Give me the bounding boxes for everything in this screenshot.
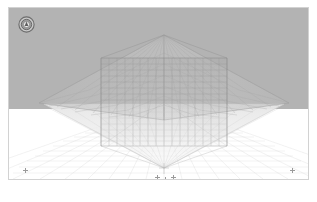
view-orientation-gizmo[interactable] (18, 16, 35, 33)
viewport-canvas[interactable] (9, 8, 308, 179)
application-root (0, 0, 317, 202)
wireframe-scene (9, 8, 308, 179)
perspective-viewport[interactable] (8, 7, 309, 180)
